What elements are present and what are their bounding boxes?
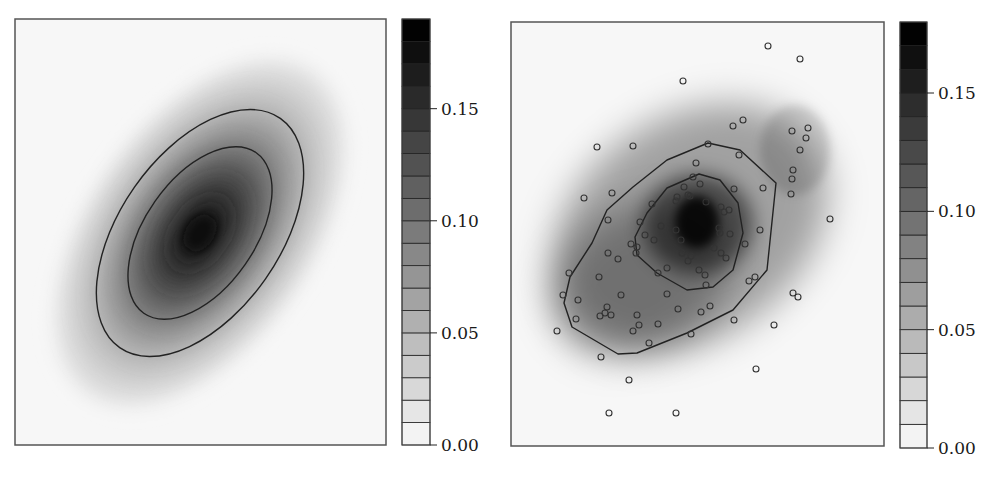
colorbar-band [402,109,430,131]
colorbar-band [900,330,927,354]
colorbar-tick-label: 0.00 [938,438,976,458]
colorbar-band [900,401,927,425]
colorbar-band [402,19,430,41]
colorbar-band [402,176,430,198]
colorbar-band [402,243,430,265]
colorbar-tick-label: 0.05 [938,320,976,340]
colorbar-band [900,353,927,377]
colorbar-band [402,154,430,176]
colorbar-band [900,188,927,212]
colorbar-band [900,93,927,117]
colorbar-band [900,22,927,46]
colorbar-band [900,117,927,141]
colorbar-band [402,198,430,220]
true-density-panel [0,11,401,456]
colorbar-band [402,378,430,400]
colorbar-left: 0.000.050.100.15 [402,19,479,455]
colorbar-band [402,64,430,86]
kde-panel [504,22,884,446]
colorbar-band [402,288,430,310]
colorbar-band [402,355,430,377]
colorbar-tick-label: 0.05 [441,323,479,343]
colorbar-tick-label: 0.00 [441,435,479,455]
colorbar-band [900,306,927,330]
colorbar-band [900,235,927,259]
colorbar-right: 0.000.050.100.15 [900,22,976,458]
colorbar-band [900,377,927,401]
colorbar-band [900,46,927,70]
colorbar-band [900,211,927,235]
colorbar-band [402,423,430,445]
colorbar-band [900,164,927,188]
colorbar-band [402,41,430,63]
colorbar-band [402,266,430,288]
colorbar-band [900,282,927,306]
colorbar-band [900,69,927,93]
colorbar-band [900,140,927,164]
colorbar-band [402,310,430,332]
colorbar-tick-label: 0.10 [938,201,976,221]
colorbar-band [900,259,927,283]
colorbar-band [402,131,430,153]
colorbar-band [402,221,430,243]
colorbar-band [402,86,430,108]
colorbar-band [900,424,927,448]
colorbar-band [402,333,430,355]
colorbar-tick-label: 0.15 [938,83,976,103]
colorbar-band [402,400,430,422]
colorbar-tick-label: 0.15 [441,99,479,119]
colorbar-tick-label: 0.10 [441,211,479,231]
figure: 0.000.050.100.15 0.000.050.100.15 [0,0,988,478]
